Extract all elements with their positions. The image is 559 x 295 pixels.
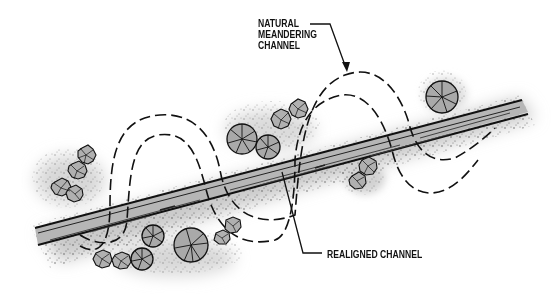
tree xyxy=(227,124,257,154)
tree xyxy=(174,228,208,262)
arrowhead-icon xyxy=(342,62,350,72)
realigned-channel-label: REALIGNED CHANNEL xyxy=(327,249,422,260)
natural-meandering-channel-label: NATURAL MEANDERING CHANNEL xyxy=(258,18,317,51)
tree xyxy=(131,248,153,270)
tree xyxy=(426,81,458,113)
label-line: CHANNEL xyxy=(258,40,317,51)
tree xyxy=(256,135,280,159)
tree xyxy=(142,225,164,247)
